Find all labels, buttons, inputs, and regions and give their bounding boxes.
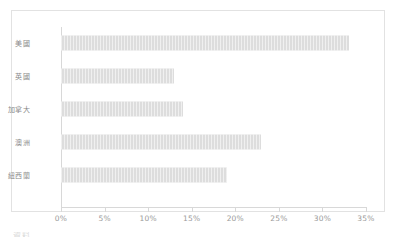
category-label: 美國 [0, 38, 30, 48]
x-axis-tick [279, 207, 280, 212]
x-axis-tick [148, 207, 149, 212]
bar [61, 36, 349, 51]
bar [61, 69, 174, 84]
category-label: 澳洲 [0, 137, 30, 147]
x-axis-tick [192, 207, 193, 212]
bar-row [61, 27, 366, 60]
x-axis-tick-label: 0% [41, 214, 81, 223]
bar-row [61, 93, 366, 126]
clipped-caption: 資料 [13, 230, 30, 237]
x-axis-tick-label: 5% [85, 214, 125, 223]
category-label: 加拿大 [0, 104, 30, 114]
category-label: 英國 [0, 71, 30, 81]
x-axis-line [61, 207, 367, 208]
bar [61, 134, 261, 149]
bar [61, 101, 183, 116]
plot-area [61, 27, 366, 191]
x-axis-tick-label: 25% [259, 214, 299, 223]
bar-row [61, 125, 366, 158]
x-axis-tick [61, 207, 62, 212]
x-axis-tick-label: 15% [172, 214, 212, 223]
screenshot-root: 美國英國加拿大澳洲紐西蘭 0%5%10%15%20%25%30%35% 資料 [0, 0, 397, 237]
x-axis-tick-label: 35% [346, 214, 386, 223]
bar-rows [61, 27, 366, 191]
x-axis-tick [322, 207, 323, 212]
x-axis-tick-label: 10% [128, 214, 168, 223]
x-axis-tick-label: 30% [302, 214, 342, 223]
x-axis-tick [366, 207, 367, 212]
bar-row [61, 60, 366, 93]
bar [61, 167, 227, 182]
x-axis-tick [105, 207, 106, 212]
bar-row [61, 158, 366, 191]
category-label: 紐西蘭 [0, 170, 30, 180]
x-axis-tick [235, 207, 236, 212]
x-axis-tick-label: 20% [215, 214, 255, 223]
chart-frame: 美國英國加拿大澳洲紐西蘭 0%5%10%15%20%25%30%35% [11, 10, 385, 212]
